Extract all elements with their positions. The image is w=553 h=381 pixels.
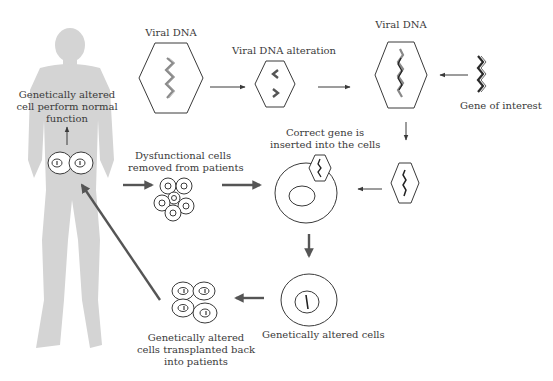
genetically-altered-cell [281,274,337,326]
label-transplanted-line3: into patients [136,356,256,368]
label-viral-dna-recombinant: Viral DNA [370,19,432,31]
label-altered-perform-line3: function [10,113,124,125]
label-dysfunctional-line2: removed from patients [128,162,238,174]
label-gene-of-interest: Gene of interest [460,100,540,112]
label-correct-gene-line1: Correct gene is [270,127,380,139]
viral-dna-recombinant-hexagon [375,42,427,108]
label-altered-perform-line2: cell perform normal [10,101,124,113]
label-viral-dna-alteration: Viral DNA alteration [232,45,318,57]
label-dysfunctional-line1: Dysfunctional cells [128,150,238,162]
gene-of-interest-strand [478,56,486,92]
target-cell [275,155,337,223]
label-transplanted-line2: cells transplanted back [136,344,256,356]
label-transplanted-line1: Genetically altered [136,332,256,344]
label-transplanted: Genetically altered cells transplanted b… [136,332,256,368]
label-dysfunctional-cells: Dysfunctional cells removed from patient… [128,150,238,174]
label-correct-gene-line2: inserted into the cells [270,139,380,151]
label-correct-gene: Correct gene is inserted into the cells [270,127,380,151]
vector-hexagon [391,163,419,203]
dysfunctional-cells-cluster [154,178,194,221]
label-viral-dna: Viral DNA [140,27,202,39]
viral-dna-hexagon [139,43,203,113]
label-altered-perform: Genetically altered cell perform normal … [10,89,124,125]
human-silhouette [28,28,114,348]
label-altered-perform-line1: Genetically altered [10,89,124,101]
transplanted-cells-cluster [172,282,217,323]
label-genetically-altered-cells: Genetically altered cells [262,329,378,341]
viral-dna-alteration-hexagon [255,61,295,107]
diagram-canvas [0,0,553,381]
